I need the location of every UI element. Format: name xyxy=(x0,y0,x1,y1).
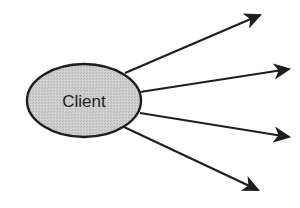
edges-group xyxy=(124,15,289,190)
client-node: Client xyxy=(27,64,141,137)
fan-out-diagram: Client xyxy=(0,0,300,208)
arrow-1 xyxy=(125,15,260,73)
arrow-4 xyxy=(124,127,258,190)
arrow-3 xyxy=(140,113,289,137)
arrow-2 xyxy=(140,69,289,92)
client-label: Client xyxy=(62,92,106,111)
